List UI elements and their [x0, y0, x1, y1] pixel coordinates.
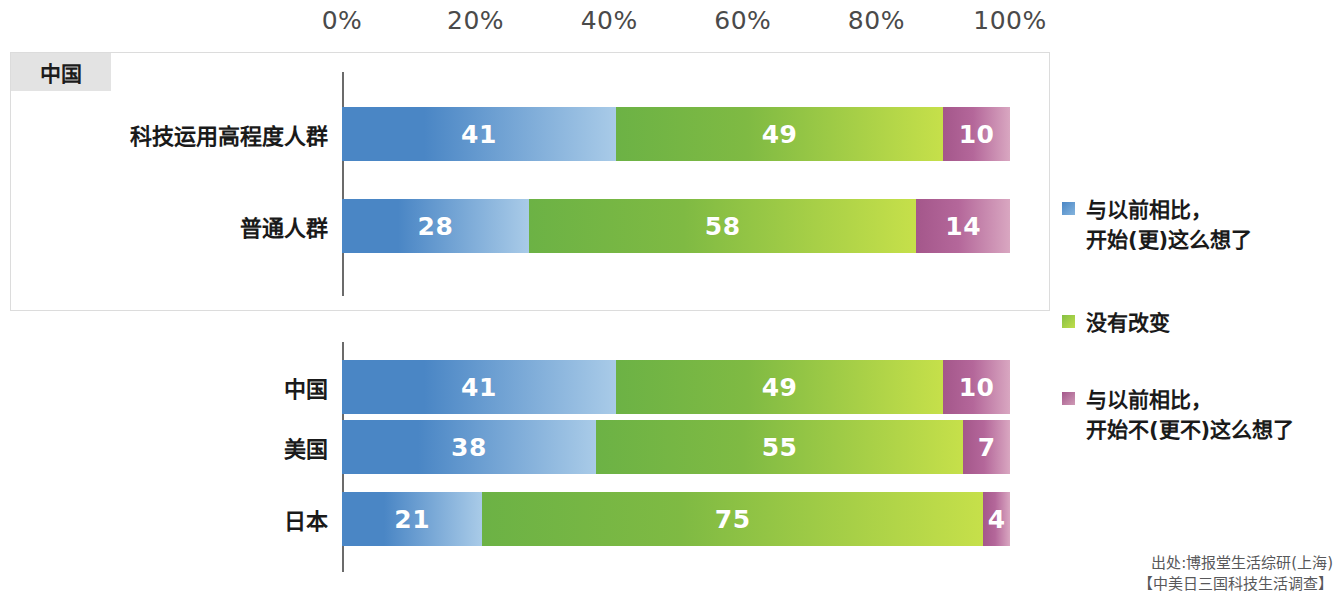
- bar-row-label: 日本: [284, 492, 328, 546]
- bar-segment: 75: [482, 492, 983, 546]
- stacked-bar: 414910: [342, 360, 1010, 414]
- bar-segment: 7: [963, 420, 1010, 474]
- source-note: 出处:博报堂生活综研(上海) 【中美日三国科技生活调查】: [1138, 553, 1333, 597]
- axis-tick-0: 0%: [322, 6, 363, 35]
- bar-segment: 4: [983, 492, 1010, 546]
- bar-row-label: 美国: [284, 420, 328, 474]
- bar-segment: 58: [529, 199, 916, 253]
- axis-line-top: [342, 72, 344, 296]
- bar-segment-value: 4: [988, 505, 1006, 534]
- bar-segment-value: 28: [418, 212, 454, 241]
- stacked-bar: 21754: [342, 492, 1010, 546]
- axis-tick-5: 100%: [973, 6, 1046, 35]
- bar-segment: 14: [916, 199, 1010, 253]
- legend-swatch-icon: [1062, 315, 1075, 328]
- bar-segment-value: 41: [461, 373, 497, 402]
- legend-item-less-than-before[interactable]: 与以前相比， 开始不(更不)这么想了: [1062, 386, 1294, 446]
- legend-item-more-than-before[interactable]: 与以前相比， 开始(更)这么想了: [1062, 196, 1252, 256]
- bar-row-label: 科技运用高程度人群: [130, 107, 328, 161]
- axis-tick-3: 60%: [714, 6, 771, 35]
- panel-tab-label: 中国: [40, 57, 82, 87]
- bar-segment-value: 55: [762, 433, 798, 462]
- stacked-bar: 414910: [342, 107, 1010, 161]
- bar-segment: 41: [342, 360, 616, 414]
- axis-tick-4: 80%: [848, 6, 905, 35]
- legend-swatch-icon: [1062, 392, 1075, 405]
- bar-segment: 38: [342, 420, 596, 474]
- source-line-1: 出处:博报堂生活综研(上海): [1138, 553, 1333, 575]
- bar-segment-value: 41: [461, 120, 497, 149]
- bar-segment-value: 58: [705, 212, 741, 241]
- bar-segment: 49: [616, 107, 943, 161]
- bar-row-label: 普通人群: [240, 199, 328, 253]
- stacked-bar: 38557: [342, 420, 1010, 474]
- bar-segment: 21: [342, 492, 482, 546]
- bar-segment-value: 49: [762, 120, 798, 149]
- axis-tick-1: 20%: [447, 6, 504, 35]
- legend-swatch-icon: [1062, 202, 1075, 215]
- bar-segment-value: 14: [945, 212, 981, 241]
- bar-segment-value: 38: [451, 433, 487, 462]
- bar-row-label: 中国: [284, 360, 328, 414]
- bar-segment-value: 10: [959, 120, 995, 149]
- bar-segment: 28: [342, 199, 529, 253]
- bar-row: 日本21754: [0, 492, 1341, 546]
- stacked-bar: 285814: [342, 199, 1010, 253]
- legend-item-no-change[interactable]: 没有改变: [1062, 309, 1170, 339]
- bar-segment-value: 21: [394, 505, 430, 534]
- bar-segment: 55: [596, 420, 963, 474]
- bar-segment-value: 49: [762, 373, 798, 402]
- bar-segment-value: 10: [959, 373, 995, 402]
- panel-tab-china: 中国: [11, 53, 111, 91]
- legend-label: 没有改变: [1086, 309, 1170, 339]
- bar-segment-value: 7: [978, 433, 996, 462]
- bar-segment: 10: [943, 360, 1010, 414]
- source-line-2: 【中美日三国科技生活调查】: [1138, 574, 1333, 596]
- bar-segment: 41: [342, 107, 616, 161]
- bar-row: 科技运用高程度人群414910: [0, 107, 1341, 161]
- panel-china-breakdown: 中国: [10, 52, 1050, 311]
- bar-segment: 49: [616, 360, 943, 414]
- axis-tick-labels: 0%20%40%60%80%100%: [0, 6, 1060, 40]
- bar-segment-value: 75: [715, 505, 751, 534]
- chart-root: 0%20%40%60%80%100% 中国 科技运用高程度人群414910普通人…: [0, 0, 1341, 602]
- axis-tick-2: 40%: [581, 6, 638, 35]
- bar-segment: 10: [943, 107, 1010, 161]
- legend-label: 与以前相比， 开始不(更不)这么想了: [1086, 386, 1294, 446]
- legend-label: 与以前相比， 开始(更)这么想了: [1086, 196, 1252, 256]
